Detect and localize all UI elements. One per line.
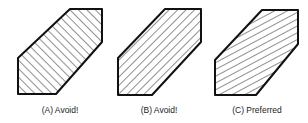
panel-c-shape [215, 10, 298, 95]
panel-a-hatch-fill [18, 9, 102, 94]
panel-c-hatch-fill [215, 10, 298, 95]
panel-b-caption: (B) Avoid! [141, 105, 178, 115]
panel-b-shape [118, 9, 201, 95]
panel-a-caption: (A) Avoid! [42, 105, 79, 115]
panel-c-caption: (C) Preferred [232, 105, 282, 115]
panel-a-shape [18, 9, 102, 94]
panel-b-hatch-fill [118, 9, 201, 95]
